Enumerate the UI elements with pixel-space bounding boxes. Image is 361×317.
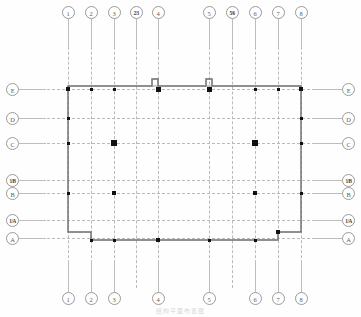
gridline-vertical-7 — [255, 22, 256, 288]
column-3-C — [111, 140, 117, 146]
column-5-E — [207, 87, 212, 92]
wall-path — [68, 79, 301, 240]
grid-leader-top-5 — [209, 19, 210, 48]
grid-leader-right-1/A — [312, 220, 342, 221]
grid-bubble-left-A[interactable]: A — [6, 232, 19, 245]
column-6-B — [253, 191, 257, 195]
grid-bubble-bottom-8[interactable]: 8 — [295, 292, 308, 305]
grid-bubble-right-A[interactable]: A — [342, 232, 355, 245]
grid-leader-right-B — [312, 193, 342, 194]
grid-bubble-right-D[interactable]: D — [342, 112, 355, 125]
grid-leader-top-3 — [114, 19, 115, 48]
grid-leader-left-A — [19, 238, 46, 239]
grid-bubble-left-C[interactable]: C — [6, 137, 19, 150]
gridline-horizontal-3 — [22, 180, 340, 181]
grid-bubble-top-2[interactable]: 2 — [85, 6, 98, 19]
column-8-C — [300, 142, 303, 145]
column-1-E — [66, 87, 70, 91]
drawing-caption: 结构平面布置图 — [0, 306, 361, 315]
column-1-C — [67, 142, 70, 145]
grid-bubble-top-4[interactable]: 4 — [152, 6, 165, 19]
grid-leader-left-1/A — [19, 220, 46, 221]
grid-leader-top-4 — [158, 19, 159, 48]
gridline-horizontal-6 — [22, 238, 340, 239]
grid-leader-bottom-5 — [209, 262, 210, 292]
grid-bubble-top-5/6[interactable]: 5/6 — [226, 6, 239, 19]
column-4-E — [156, 87, 161, 92]
column-3-A — [113, 239, 116, 242]
grid-bubble-top-1[interactable]: 1 — [62, 6, 75, 19]
grid-bubble-bottom-4[interactable]: 4 — [152, 292, 165, 305]
grid-bubble-top-6[interactable]: 6 — [249, 6, 262, 19]
gridline-vertical-3 — [136, 22, 137, 288]
gridline-horizontal-4 — [22, 193, 340, 194]
grid-bubble-bottom-7[interactable]: 7 — [272, 292, 285, 305]
column-1-B — [67, 192, 70, 195]
column-6-E — [254, 88, 257, 91]
grid-bubble-right-1/B[interactable]: 1/B — [342, 174, 355, 187]
building-perimeter-wall — [0, 0, 361, 317]
column-3-E — [113, 88, 116, 91]
gridline-horizontal-2 — [22, 143, 340, 144]
gridline-vertical-9 — [301, 22, 302, 288]
grid-bubble-left-1/B[interactable]: 1/B — [6, 174, 19, 187]
grid-leader-right-A — [312, 238, 342, 239]
grid-bubble-bottom-3[interactable]: 3 — [108, 292, 121, 305]
column-8-D — [300, 117, 303, 120]
column-7-1A — [276, 230, 280, 234]
grid-bubble-left-1/A[interactable]: 1/A — [6, 214, 19, 227]
column-6-A — [254, 239, 257, 242]
grid-bubble-left-E[interactable]: E — [6, 83, 19, 96]
grid-bubble-bottom-5[interactable]: 5 — [203, 292, 216, 305]
grid-bubble-top-7[interactable]: 7 — [272, 6, 285, 19]
column-2-A — [90, 239, 93, 242]
gridline-vertical-1 — [91, 22, 92, 288]
grid-leader-top-7 — [278, 19, 279, 48]
grid-bubble-top-5[interactable]: 5 — [203, 6, 216, 19]
grid-leader-left-1/B — [19, 180, 46, 181]
grid-bubble-right-E[interactable]: E — [342, 83, 355, 96]
column-6-C — [252, 140, 258, 146]
grid-leader-top-8 — [301, 19, 302, 48]
gridline-horizontal-1 — [22, 118, 340, 119]
column-8-E — [299, 87, 303, 91]
grid-bubble-top-3[interactable]: 3 — [108, 6, 121, 19]
column-2-E — [90, 88, 93, 91]
grid-leader-bottom-7 — [278, 262, 279, 292]
grid-leader-right-E — [312, 89, 342, 90]
column-1-D — [67, 117, 70, 120]
column-5-A — [208, 239, 211, 242]
grid-leader-top-1 — [68, 19, 69, 48]
grid-leader-bottom-1 — [68, 262, 69, 292]
grid-bubble-bottom-2[interactable]: 2 — [85, 292, 98, 305]
gridline-vertical-2 — [114, 22, 115, 288]
grid-bubble-bottom-6[interactable]: 6 — [249, 292, 262, 305]
grid-bubble-right-1/A[interactable]: 1/A — [342, 214, 355, 227]
column-7-E — [277, 88, 280, 91]
grid-leader-left-C — [19, 143, 46, 144]
grid-bubble-right-C[interactable]: C — [342, 137, 355, 150]
column-3-B — [112, 191, 116, 195]
gridline-vertical-8 — [278, 22, 279, 288]
grid-leader-left-B — [19, 193, 46, 194]
grid-leader-bottom-3 — [114, 262, 115, 292]
floor-plan-canvas: 1232/3455/6678 12345678 EDC1/BB1/AA EDC1… — [0, 0, 361, 317]
grid-leader-top-6 — [255, 19, 256, 48]
grid-bubble-top-8[interactable]: 8 — [295, 6, 308, 19]
grid-leader-top-2 — [91, 19, 92, 48]
grid-bubble-left-B[interactable]: B — [6, 187, 19, 200]
grid-bubble-left-D[interactable]: D — [6, 112, 19, 125]
grid-bubble-bottom-1[interactable]: 1 — [62, 292, 75, 305]
gridline-vertical-5 — [209, 22, 210, 288]
grid-leader-top-5/6 — [232, 19, 233, 48]
grid-bubble-right-B[interactable]: B — [342, 187, 355, 200]
grid-bubble-top-2/3[interactable]: 2/3 — [130, 6, 143, 19]
grid-leader-left-D — [19, 118, 46, 119]
gridline-vertical-4 — [158, 22, 159, 288]
gridline-vertical-0 — [68, 22, 69, 288]
column-4-A — [156, 238, 160, 242]
grid-leader-left-E — [19, 89, 46, 90]
gridline-horizontal-5 — [22, 220, 340, 221]
column-8-B — [300, 192, 303, 195]
grid-leader-bottom-6 — [255, 262, 256, 292]
